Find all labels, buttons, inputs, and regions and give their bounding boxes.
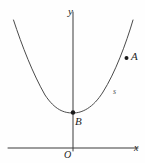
point-a-label: A [131,51,138,62]
figure-canvas [0,0,145,163]
y-axis-label: y [68,6,73,17]
x-axis-label: x [134,143,138,153]
point-b-label: B [75,116,82,127]
curve-label: s [113,88,116,96]
point-a-marker [125,56,129,60]
origin-label: O [64,150,71,160]
parabola-figure: y x O A B s [0,0,145,163]
